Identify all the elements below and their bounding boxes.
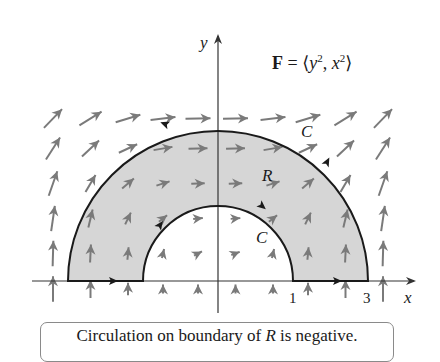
y-axis-label: y [198,33,208,52]
outer-curve-label: C [301,122,313,141]
region-label: R [261,166,273,185]
caption-box: Circulation on boundary of R is negative… [40,322,394,362]
x-tick-1: 1 [289,290,297,306]
x-axis-label: x [403,288,412,307]
x-tick-3: 3 [363,290,371,306]
field-formula: F = ⟨y2, x2⟩ [272,52,352,73]
caption-text: Circulation on boundary of R is negative… [41,326,393,346]
inner-curve-label: C [256,228,268,247]
